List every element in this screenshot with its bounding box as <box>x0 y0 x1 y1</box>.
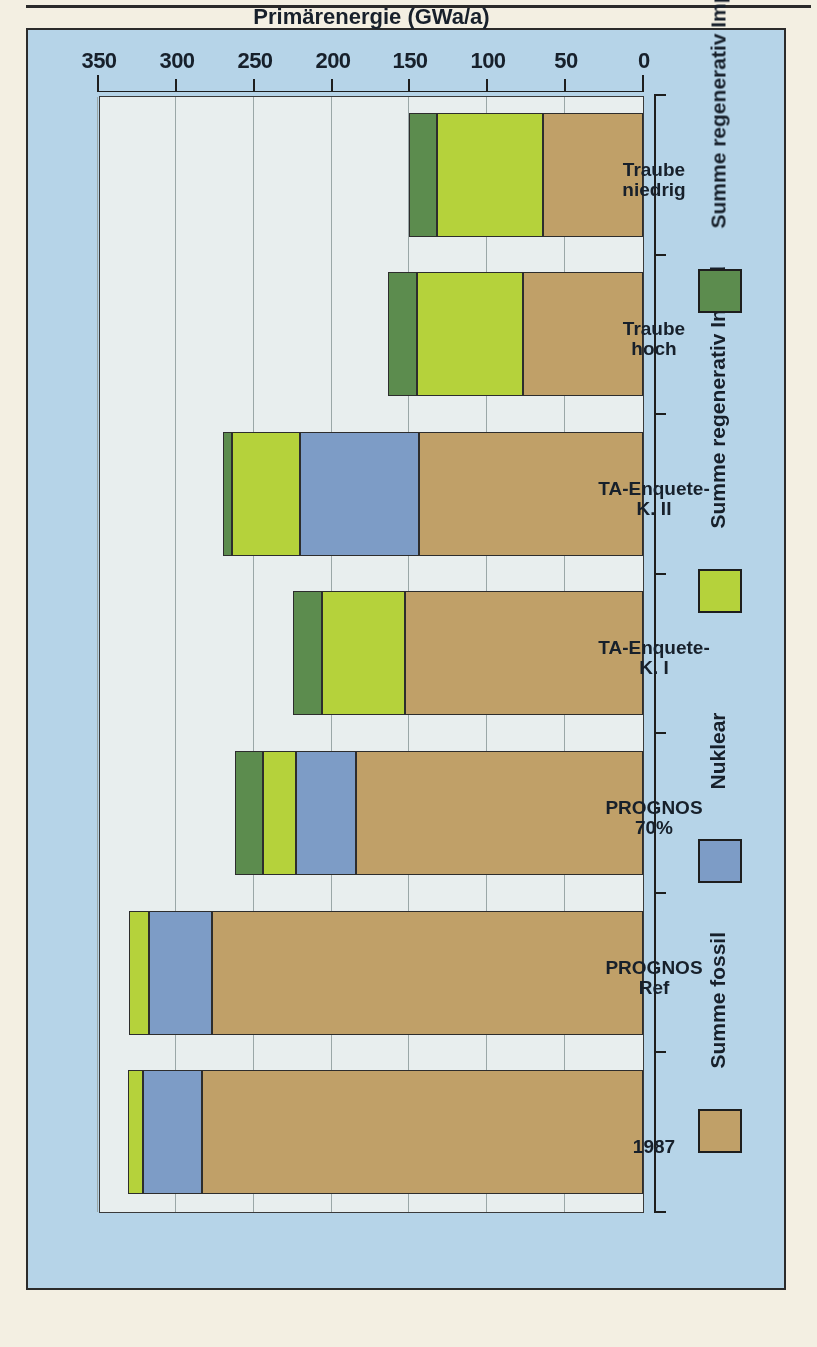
bar-row <box>98 911 643 1035</box>
value-axis-tick-label: 250 <box>225 48 285 74</box>
bar-segment <box>129 911 149 1035</box>
value-axis-tick <box>97 75 99 92</box>
category-label: PROGNOS70% <box>584 798 724 838</box>
bar-segment <box>263 751 296 875</box>
bar-segment <box>232 432 301 556</box>
bar-row <box>98 592 643 716</box>
bar-segment <box>437 113 543 237</box>
category-label: Traubehoch <box>584 319 724 359</box>
bar-segment <box>235 751 263 875</box>
value-axis-tick <box>642 75 644 92</box>
category-label-line1: PROGNOS <box>584 958 724 978</box>
value-axis-tick <box>253 79 255 92</box>
category-axis-tick <box>654 1211 666 1213</box>
bar-segment <box>322 592 405 716</box>
bar-segment <box>409 113 437 237</box>
plot-area <box>99 96 644 1213</box>
category-axis-tick <box>654 573 666 575</box>
legend-swatch <box>698 269 742 313</box>
value-axis-tick <box>175 79 177 92</box>
value-axis-tick <box>486 79 488 92</box>
value-axis-tick-label: 300 <box>147 48 207 74</box>
value-axis-tick-label: 150 <box>380 48 440 74</box>
category-label-line1: Traube <box>584 160 724 180</box>
category-label: 1987 <box>584 1137 724 1157</box>
value-axis <box>99 91 644 92</box>
bar-row <box>98 272 643 396</box>
legend-item[interactable]: Summe fossil <box>671 903 766 1153</box>
value-axis-tick <box>408 79 410 92</box>
bar-segment <box>388 272 418 396</box>
bar-row <box>98 432 643 556</box>
category-label-line2: K. I <box>584 659 724 679</box>
category-label: TA-Enquete-K. II <box>584 479 724 519</box>
figure-panel: Primärenergie (GWa/a) Summe fossilNuklea… <box>26 28 786 1290</box>
category-axis-tick <box>654 94 666 96</box>
category-axis-tick <box>654 732 666 734</box>
value-axis-tick-label: 100 <box>458 48 518 74</box>
value-axis-tick <box>564 79 566 92</box>
category-label-line1: 1987 <box>584 1137 724 1157</box>
category-label: Traubeniedrig <box>584 160 724 200</box>
rotated-figure-content: Primärenergie (GWa/a) Summe fossilNuklea… <box>28 30 784 1288</box>
bar-segment <box>128 1070 144 1194</box>
value-axis-tick <box>331 79 333 92</box>
category-label-line2: niedrig <box>584 180 724 200</box>
category-label: TA-Enquete-K. I <box>584 639 724 679</box>
bar-segment <box>202 1070 643 1194</box>
category-label-line1: TA-Enquete- <box>584 639 724 659</box>
category-axis-tick <box>654 1051 666 1053</box>
bar-segment <box>149 911 211 1035</box>
bar-segment <box>223 432 232 556</box>
value-axis-tick-label: 0 <box>614 48 674 74</box>
category-label-line1: PROGNOS <box>584 798 724 818</box>
bar-row <box>98 113 643 237</box>
category-axis-tick <box>654 892 666 894</box>
legend-label: Nuklear <box>707 704 731 799</box>
category-label-line2: hoch <box>584 339 724 359</box>
value-axis-tick-label: 350 <box>69 48 129 74</box>
bar-row <box>98 751 643 875</box>
bar-segment <box>212 911 643 1035</box>
category-label: PROGNOSRef <box>584 958 724 998</box>
category-label-line2: Ref <box>584 978 724 998</box>
value-axis-tick-label: 50 <box>536 48 596 74</box>
bar-segment <box>296 751 357 875</box>
value-axis-tick-label: 200 <box>303 48 363 74</box>
bar-segment <box>293 592 323 716</box>
bar-segment <box>143 1070 202 1194</box>
legend-swatch <box>698 839 742 883</box>
bar-segment <box>417 272 523 396</box>
category-label-line1: TA-Enquete- <box>584 479 724 499</box>
category-axis-tick <box>654 413 666 415</box>
value-axis-title: Primärenergie (GWa/a) <box>99 4 644 30</box>
legend-swatch <box>698 569 742 613</box>
bar-segment <box>300 432 418 556</box>
category-axis-tick <box>654 254 666 256</box>
category-label-line2: 70% <box>584 818 724 838</box>
category-label-line2: K. II <box>584 499 724 519</box>
bar-row <box>98 1070 643 1194</box>
category-label-line1: Traube <box>584 319 724 339</box>
